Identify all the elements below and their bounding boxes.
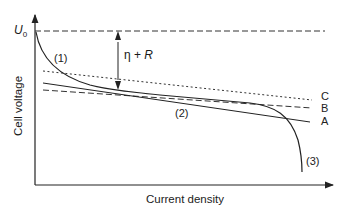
series-a-label: A [321, 115, 328, 127]
x-axis-title: Current density [146, 193, 224, 205]
region-1-label: (1) [54, 52, 67, 64]
series-b-line [43, 90, 312, 108]
polarization-diagram [0, 0, 348, 214]
eta-r-label: η + R [124, 48, 153, 62]
region-2-label: (2) [175, 107, 188, 119]
series-c-line [43, 71, 312, 100]
polarization-curve [36, 32, 302, 172]
y-axis-title: Cell voltage [12, 76, 24, 136]
series-c-label: C [321, 90, 329, 102]
region-3-label: (3) [306, 155, 319, 167]
series-b-label: B [321, 102, 328, 114]
u0-label: U0 [14, 23, 27, 39]
